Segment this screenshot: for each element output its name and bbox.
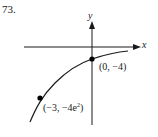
y-axis-arrow-icon bbox=[89, 21, 95, 29]
x-axis-arrow-icon bbox=[133, 44, 141, 50]
problem-number: 73. bbox=[2, 4, 16, 15]
point-label-neg3-neg4e2: (−3, −4e2) bbox=[43, 103, 83, 113]
point-0-neg4 bbox=[89, 56, 94, 61]
point-neg3-neg4e2 bbox=[37, 95, 42, 100]
point-label-prefix: (−3, −4e bbox=[43, 102, 77, 113]
x-axis-label: x bbox=[142, 40, 146, 50]
graph-figure bbox=[0, 0, 158, 137]
point-label-suffix: ) bbox=[80, 102, 83, 113]
point-label-0-neg4: (0, −4) bbox=[99, 62, 126, 72]
y-axis-label: y bbox=[88, 11, 92, 21]
